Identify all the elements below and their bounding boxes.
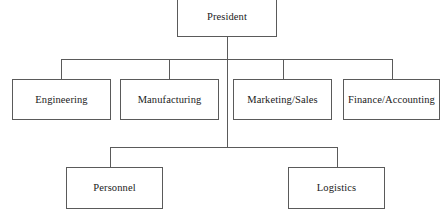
org-chart-canvas: President Engineering Manufacturing Mark… bbox=[0, 0, 442, 221]
connector-drop-personnel bbox=[110, 147, 111, 168]
connector-drop-manufacturing bbox=[169, 59, 170, 80]
org-node-marketing-sales[interactable]: Marketing/Sales bbox=[233, 79, 332, 120]
connector-president-trunk bbox=[227, 37, 228, 147]
org-node-label: Manufacturing bbox=[138, 94, 202, 106]
connector-drop-logistics bbox=[337, 147, 338, 168]
connector-drop-finance-accounting bbox=[392, 59, 393, 80]
org-node-label: Marketing/Sales bbox=[247, 94, 317, 106]
connector-drop-marketing-sales bbox=[283, 59, 284, 80]
org-node-label: Personnel bbox=[93, 182, 135, 194]
org-node-label: Finance/Accounting bbox=[348, 94, 435, 106]
org-node-label: Logistics bbox=[317, 182, 356, 194]
org-node-manufacturing[interactable]: Manufacturing bbox=[120, 79, 219, 120]
org-node-finance-accounting[interactable]: Finance/Accounting bbox=[343, 79, 440, 120]
org-node-president[interactable]: President bbox=[177, 0, 277, 37]
org-node-personnel[interactable]: Personnel bbox=[66, 167, 163, 209]
connector-level3-bus bbox=[110, 147, 338, 148]
connector-level2-bus bbox=[61, 59, 393, 60]
org-node-logistics[interactable]: Logistics bbox=[288, 167, 385, 209]
connector-drop-engineering bbox=[61, 59, 62, 80]
org-node-engineering[interactable]: Engineering bbox=[12, 79, 111, 120]
org-node-label: Engineering bbox=[35, 94, 87, 106]
org-node-label: President bbox=[207, 11, 247, 23]
